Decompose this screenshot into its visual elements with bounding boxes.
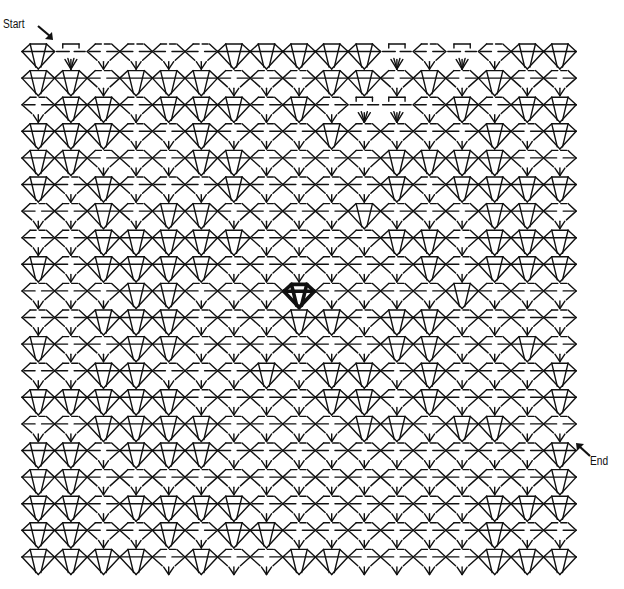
maze-cell	[250, 177, 283, 202]
maze-cell	[315, 390, 348, 415]
maze-cell	[383, 44, 412, 69]
maze-cell	[283, 230, 316, 255]
maze-cell	[315, 496, 348, 521]
maze-cell	[478, 310, 511, 335]
maze-cell	[185, 443, 218, 468]
maze-cell	[87, 124, 120, 149]
maze-cell	[218, 443, 251, 468]
maze-cell	[55, 257, 88, 282]
maze-cell	[55, 310, 88, 335]
maze-cell	[283, 470, 316, 495]
maze-cell	[544, 177, 577, 202]
maze-cell	[413, 124, 446, 149]
maze-cell	[315, 124, 348, 149]
maze-cell	[413, 363, 446, 388]
maze-cell	[348, 124, 381, 149]
maze-cell	[511, 496, 544, 521]
maze-cell	[315, 549, 348, 574]
maze-cell	[218, 177, 251, 202]
maze-cell	[413, 97, 446, 122]
maze-cell	[120, 416, 153, 441]
maze-cell	[315, 257, 348, 282]
maze-cell	[478, 337, 511, 362]
maze-cell	[446, 230, 479, 255]
maze-cell	[87, 177, 120, 202]
maze-cell	[283, 416, 316, 441]
maze-cell	[283, 177, 316, 202]
maze-cell	[544, 443, 577, 468]
maze-cell	[381, 310, 414, 335]
maze-cell	[381, 177, 414, 202]
maze-cell	[446, 470, 479, 495]
maze-cell	[185, 470, 218, 495]
maze-cell	[544, 523, 577, 548]
maze-cell	[381, 470, 414, 495]
maze-cell	[283, 390, 316, 415]
maze-cell	[544, 124, 577, 149]
maze-cell	[446, 150, 479, 175]
maze-cell	[185, 230, 218, 255]
maze-cell	[446, 523, 479, 548]
maze-cell	[446, 549, 479, 574]
maze-cell	[511, 523, 544, 548]
maze-cell	[185, 496, 218, 521]
maze-cell	[478, 523, 511, 548]
maze-cell	[55, 390, 88, 415]
maze-cell	[446, 97, 479, 122]
maze-cell	[511, 177, 544, 202]
maze-cell	[218, 257, 251, 282]
maze-cell	[22, 390, 55, 415]
maze-cell	[315, 230, 348, 255]
maze-cell	[185, 523, 218, 548]
maze-cell	[22, 310, 55, 335]
maze-cell	[381, 496, 414, 521]
maze-cell	[185, 177, 218, 202]
start-arrow-icon	[36, 24, 56, 42]
maze-cell	[185, 310, 218, 335]
maze-cell	[478, 470, 511, 495]
maze-cell	[381, 390, 414, 415]
maze-cell	[381, 443, 414, 468]
maze-cell	[87, 150, 120, 175]
maze-cell	[315, 97, 348, 122]
maze-cell	[22, 363, 55, 388]
maze-cell	[120, 204, 153, 229]
maze-cell	[283, 44, 316, 69]
maze-cell	[544, 337, 577, 362]
maze-cell	[87, 204, 120, 229]
maze-cell	[511, 150, 544, 175]
maze-cell	[478, 97, 511, 122]
maze-cell	[511, 97, 544, 122]
maze-cell	[87, 257, 120, 282]
maze-cell	[348, 363, 381, 388]
maze-cell	[120, 496, 153, 521]
maze-cell	[152, 549, 185, 574]
maze-cell	[348, 523, 381, 548]
maze-cell	[348, 71, 381, 96]
maze-cell	[283, 97, 316, 122]
maze-cell	[381, 416, 414, 441]
maze-cell	[348, 44, 381, 69]
maze-cell	[283, 150, 316, 175]
maze-cell	[22, 470, 55, 495]
maze-cell	[348, 177, 381, 202]
maze-cell	[55, 71, 88, 96]
maze-cell	[315, 283, 348, 308]
maze-cell	[152, 71, 185, 96]
maze-cell	[315, 150, 348, 175]
maze-cell	[348, 150, 381, 175]
maze-cell	[218, 71, 251, 96]
maze-cell	[152, 523, 185, 548]
maze-cell	[250, 549, 283, 574]
maze-cell	[185, 44, 218, 69]
maze-cell	[120, 124, 153, 149]
maze-cell	[87, 416, 120, 441]
maze-cell	[218, 549, 251, 574]
maze-cell	[185, 150, 218, 175]
maze-cell	[315, 337, 348, 362]
maze-cell	[22, 177, 55, 202]
maze-cell	[120, 283, 153, 308]
maze-cell	[544, 204, 577, 229]
maze-cell	[381, 230, 414, 255]
maze-cell	[120, 549, 153, 574]
